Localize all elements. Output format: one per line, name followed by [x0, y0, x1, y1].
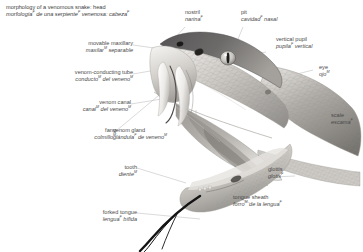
- label-glottis: glottis glotisF: [268, 166, 283, 180]
- label-scale: scale escamaF: [331, 112, 353, 126]
- label-tongue-sheath: tongue sheath forroM de la lenguaF: [233, 194, 282, 208]
- label-nostril: nostril narinaF: [185, 9, 203, 23]
- label-venom-conducting-tube: venom-conducting tube conductoM del vene…: [0, 69, 133, 83]
- label-tooth: tooth dienteM: [0, 164, 137, 178]
- label-venom-canal: venom canal canalM del venenoM: [0, 99, 131, 113]
- label-pit: pit cavidadF nasal: [241, 9, 277, 23]
- label-vertical-pupil: vertical pupil pupilaF vertical: [276, 36, 312, 50]
- title-es: morfologíaF de una serpienteF venenosa: …: [6, 11, 206, 18]
- label-eye: eye ojoM: [319, 64, 329, 78]
- diagram-title: morphology of a venomous snake: head mor…: [6, 4, 206, 19]
- label-fang: fang colmilloM: [0, 127, 116, 141]
- label-forked-tongue: forked tongue lenguaF bífida: [0, 209, 137, 223]
- label-venom-gland: venom gland glándulaF de venenoM: [113, 127, 167, 141]
- vertical-pupil-shape: [227, 53, 230, 64]
- label-movable-maxillary: movable maxillary maxilarM separable: [0, 40, 133, 54]
